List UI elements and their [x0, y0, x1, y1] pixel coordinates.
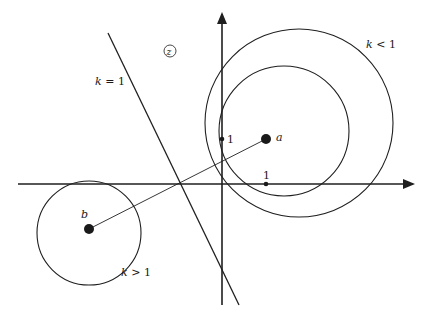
unit-y-point — [220, 137, 225, 142]
label-unit-y: 1 — [227, 133, 234, 146]
label-k-greater-than-1: k > 1 — [121, 266, 151, 279]
label-k-less-than-1: k < 1 — [366, 38, 396, 51]
circle-k-less-than-1-inner — [219, 66, 349, 196]
label-unit-x: 1 — [263, 169, 270, 182]
label-z: z — [166, 47, 172, 57]
apollonius-diagram: k = 1 k < 1 k > 1 a b 1 1 z — [0, 0, 432, 324]
label-k-equals-1: k = 1 — [95, 75, 125, 88]
label-a: a — [276, 131, 283, 144]
plane-label-z: z — [164, 45, 176, 57]
label-b: b — [81, 208, 88, 221]
circle-k-less-than-1-outer — [205, 29, 393, 217]
point-a — [261, 134, 271, 144]
unit-x-point — [264, 182, 269, 187]
point-b — [84, 224, 94, 234]
